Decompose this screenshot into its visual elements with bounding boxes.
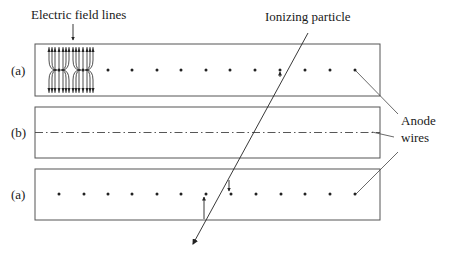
electric-field-lines-label: Electric field lines [31, 8, 126, 21]
electric-field-lines [49, 47, 93, 93]
panel-label-middle: (b) [11, 126, 26, 139]
top-anode-wires [107, 69, 357, 72]
panel-label-bottom: (a) [11, 188, 25, 201]
bottom-anode-wires [58, 193, 357, 196]
panel-label-top: (a) [11, 64, 25, 77]
ionizing-particle-label: Ionizing particle [265, 10, 351, 23]
bottom-chamber-box [35, 169, 380, 220]
ionizing-particle-track [193, 33, 308, 244]
anode-wires-label-line2: wires [401, 131, 429, 144]
chamber-diagram [0, 0, 449, 259]
anode-wires-label-line1: Anode [401, 114, 436, 127]
